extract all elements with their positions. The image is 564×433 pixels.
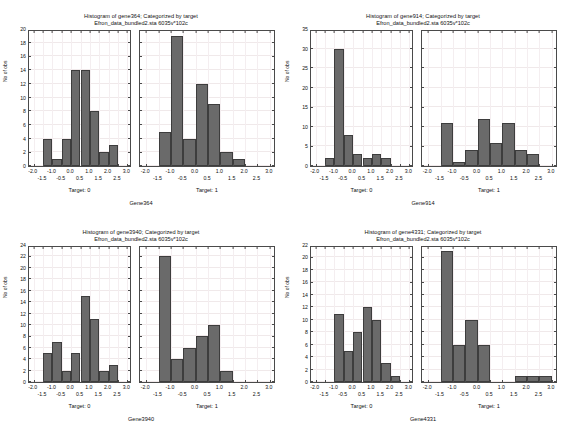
y-tick-label: 8 <box>23 110 26 115</box>
x-tick-label: -0.5 <box>460 392 469 397</box>
y-tick-label: 10 <box>302 318 308 323</box>
chart-panel-gene364: Histogram of gene364; Categorized by tar… <box>0 0 282 216</box>
x-tick-label: -2.0 <box>423 385 432 390</box>
x-tick-label: 0.5 <box>358 176 365 181</box>
histogram-bar <box>515 150 527 166</box>
y-tick-label: 6 <box>23 346 26 351</box>
axes-target-0 <box>28 30 131 167</box>
y-tick-label: 12 <box>20 82 26 87</box>
histogram-bar <box>43 353 52 382</box>
x-tick-label: -2.0 <box>310 169 319 174</box>
x-tick-label: 0.5 <box>485 176 492 181</box>
x-tick-label: 0.0 <box>67 169 74 174</box>
y-tick-label: 20 <box>302 86 308 91</box>
histogram-bar <box>441 123 453 166</box>
x-tick-label: 3.0 <box>265 169 272 174</box>
x-tick-label: 1.5 <box>95 392 102 397</box>
gene-label: Gene3940 <box>0 416 282 422</box>
panel-category-label: Target: 0 <box>28 187 131 193</box>
x-tick-label: 2.0 <box>104 385 111 390</box>
panel-category-label: Target: 1 <box>421 187 557 193</box>
y-tick-label: 16 <box>20 289 26 294</box>
y-tick-label: 4 <box>305 355 308 360</box>
x-tick-label: -2.0 <box>423 169 432 174</box>
x-tick-label: 0.0 <box>191 169 198 174</box>
x-tick-label: 2.5 <box>253 176 260 181</box>
x-tick-label: 0.5 <box>76 176 83 181</box>
y-tick-label: 2 <box>23 151 26 156</box>
x-axis-ticks: -2.0-1.00.01.02.03.0-1.5-0.50.51.52.5 <box>139 168 275 184</box>
y-tick-label: 20 <box>302 256 308 261</box>
x-tick-label: 1.0 <box>85 169 92 174</box>
y-tick-label: 0 <box>305 380 308 385</box>
x-tick-label: -1.5 <box>320 176 329 181</box>
bar-series <box>29 31 130 166</box>
chart-title: Histogram of gene3940; Categorized by ta… <box>0 229 282 236</box>
histogram-bar <box>527 154 539 166</box>
chart-panel-gene4331: Histogram of gene4331; Categorized by ta… <box>282 216 564 433</box>
histogram-bar <box>171 36 183 166</box>
x-tick-label: 3.0 <box>123 169 130 174</box>
bar-series <box>422 31 556 166</box>
x-axis-ticks: -2.0-1.00.01.02.03.0-1.5-0.50.51.52.5 <box>421 384 557 400</box>
y-tick-label: 8 <box>305 331 308 336</box>
y-tick-label: 4 <box>23 137 26 142</box>
x-tick-label: 2.5 <box>535 176 542 181</box>
x-tick-label: 2.0 <box>386 385 393 390</box>
x-tick-label: -1.0 <box>447 385 456 390</box>
histogram-bar <box>502 123 514 166</box>
y-tick-label: 0 <box>23 380 26 385</box>
y-tick-label: 15 <box>302 106 308 111</box>
x-tick-label: 2.0 <box>240 385 247 390</box>
y-tick-label: 0 <box>305 164 308 169</box>
x-tick-label: -1.0 <box>165 385 174 390</box>
histogram-figure-grid: Histogram of gene364; Categorized by tar… <box>0 0 564 433</box>
y-tick-label: 30 <box>302 47 308 52</box>
chart-title: Histogram of gene364; Categorized by tar… <box>0 13 282 20</box>
y-tick-label: 14 <box>302 293 308 298</box>
y-tick-label: 16 <box>20 55 26 60</box>
y-tick-label: 35 <box>302 27 308 32</box>
histogram-bar <box>171 359 183 382</box>
histogram-bar <box>90 111 99 166</box>
x-axis-ticks: -2.0-1.00.01.02.03.0-1.5-0.50.51.52.5 <box>310 168 413 184</box>
y-axis-label: No of obs <box>284 61 290 82</box>
histogram-bar <box>344 351 353 382</box>
x-tick-label: 3.0 <box>405 169 412 174</box>
histogram-bar <box>325 158 334 166</box>
histogram-bar <box>353 332 362 382</box>
plot-area: No of obs0246810121416182022-2.0-1.00.01… <box>282 246 564 396</box>
histogram-bar <box>196 84 208 166</box>
histogram-bar <box>363 307 372 382</box>
x-tick-label: 1.5 <box>377 176 384 181</box>
y-tick-label: 12 <box>302 306 308 311</box>
x-tick-label: 1.0 <box>498 169 505 174</box>
histogram-bar <box>81 70 90 166</box>
y-axis-ticks: 0246810121416182022 <box>291 246 309 383</box>
axes-target-1 <box>139 30 275 167</box>
x-tick-label: 1.5 <box>510 176 517 181</box>
x-tick-label: -2.0 <box>310 385 319 390</box>
y-tick-label: 20 <box>20 266 26 271</box>
histogram-bar <box>43 139 52 166</box>
x-tick-label: 2.5 <box>535 392 542 397</box>
histogram-bar <box>453 162 465 166</box>
bar-series <box>311 31 412 166</box>
histogram-bar <box>478 119 490 166</box>
histogram-bar <box>490 143 502 166</box>
chart-panel-gene3940: Histogram of gene3940; Categorized by ta… <box>0 216 282 433</box>
x-tick-label: 2.0 <box>522 169 529 174</box>
gene-label: Gene364 <box>0 200 282 206</box>
histogram-bar <box>220 152 232 166</box>
y-tick-label: 10 <box>302 125 308 130</box>
histogram-bar <box>71 353 80 382</box>
histogram-bar <box>372 320 381 382</box>
x-axis-ticks: -2.0-1.00.01.02.03.0-1.5-0.50.51.52.5 <box>310 384 413 400</box>
histogram-bar <box>90 319 99 382</box>
x-tick-label: -1.5 <box>153 176 162 181</box>
y-tick-label: 8 <box>23 335 26 340</box>
panel-category-label: Target: 0 <box>310 403 413 409</box>
x-tick-label: -1.5 <box>38 392 47 397</box>
x-axis-ticks: -2.0-1.00.01.02.03.0-1.5-0.50.51.52.5 <box>28 384 131 400</box>
y-tick-label: 14 <box>20 68 26 73</box>
